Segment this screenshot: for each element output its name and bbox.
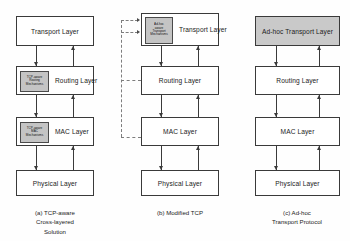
panel-b-transport-layer-box[interactable]: Ad-hoc aware Transport Mechanisms Transp… bbox=[141, 13, 219, 46]
panel-b-physical-layer-label: Physical Layer bbox=[158, 180, 202, 187]
panel-c: Ad-hoc Transport Layer Routing Layer MAC… bbox=[235, 0, 350, 241]
panel-b-adhoc-aware-transport-mechanisms-box[interactable]: Ad-hoc aware Transport Mechanisms bbox=[145, 17, 173, 44]
panel-b-feedback-bus-vertical bbox=[121, 20, 122, 137]
panel-a-caption: (a) TCP-aware Cross-layered Solution bbox=[6, 208, 104, 236]
panel-a-caption-line: (a) TCP-aware bbox=[6, 208, 104, 217]
panel-a-mac-layer-box[interactable]: TCP-aware MAC Mechanisms MAC Layer bbox=[16, 117, 94, 146]
panel-c-adhoc-transport-layer-box[interactable]: Ad-hoc Transport Layer bbox=[255, 16, 340, 46]
panel-b-feedback-branch-routing bbox=[121, 80, 141, 81]
panel-a-caption-line: Cross-layered bbox=[6, 217, 104, 226]
panel-a-physical-layer-box[interactable]: Physical Layer bbox=[16, 170, 94, 196]
panel-b-feedback-branch-mac bbox=[121, 137, 141, 138]
panel-b-routing-layer-label: Routing Layer bbox=[159, 77, 201, 84]
panel-c-mac-layer-box[interactable]: MAC Layer bbox=[255, 117, 340, 146]
mechanism-line: Mechanisms bbox=[26, 134, 43, 137]
mechanism-line: Mechanisms bbox=[26, 83, 43, 86]
panel-a: Transport Layer TCP-aware Routing Mechan… bbox=[0, 0, 115, 241]
panel-b-transport-layer-label: Transport Layer bbox=[179, 26, 227, 33]
panel-b-feedback-arrow-transport-lower bbox=[137, 30, 140, 34]
panel-b-arrowhead-up-routing bbox=[196, 95, 200, 99]
panel-b-caption: (b) Modified TCP bbox=[131, 208, 229, 217]
panel-c-routing-layer-label: Routing Layer bbox=[276, 77, 318, 84]
panel-c-routing-layer-box[interactable]: Routing Layer bbox=[255, 66, 340, 95]
panel-a-transport-layer-label: Transport Layer bbox=[31, 28, 79, 35]
panel-b-feedback-arrow-transport-upper bbox=[137, 18, 140, 22]
panel-b-physical-layer-box[interactable]: Physical Layer bbox=[141, 170, 219, 196]
panel-b-arrowhead-up-mac bbox=[196, 146, 200, 150]
panel-a-tcp-aware-routing-mechanisms-box[interactable]: TCP-aware Routing Mechanisms bbox=[20, 71, 49, 92]
panel-c-arrowhead-up-mac bbox=[317, 146, 321, 150]
panel-a-transport-layer-box[interactable]: Transport Layer bbox=[16, 16, 94, 46]
panel-a-arrowhead-up-transport bbox=[71, 46, 75, 50]
panel-c-physical-layer-box[interactable]: Physical Layer bbox=[255, 170, 340, 196]
panel-b-feedback-branch-transport-upper bbox=[121, 20, 138, 21]
panel-c-physical-layer-label: Physical Layer bbox=[275, 180, 319, 187]
panel-c-caption: (c) Ad-hoc Transport Protocol bbox=[247, 208, 347, 227]
panel-b-feedback-branch-transport-lower bbox=[121, 32, 138, 33]
panel-b-mac-layer-label: MAC Layer bbox=[163, 128, 197, 135]
panel-a-routing-layer-label: Routing Layer bbox=[55, 77, 97, 84]
panel-a-tcp-aware-mac-mechanisms-box[interactable]: TCP-aware MAC Mechanisms bbox=[20, 122, 49, 143]
panel-c-mac-layer-label: MAC Layer bbox=[281, 128, 315, 135]
panel-a-routing-layer-box[interactable]: TCP-aware Routing Mechanisms Routing Lay… bbox=[16, 66, 94, 95]
panel-c-caption-line: (c) Ad-hoc bbox=[247, 208, 347, 217]
panel-a-mac-layer-label: MAC Layer bbox=[55, 128, 89, 135]
panel-b-routing-layer-box[interactable]: Routing Layer bbox=[141, 66, 219, 95]
panel-c-arrowhead-up-routing bbox=[317, 95, 321, 99]
panel-b-mac-layer-box[interactable]: MAC Layer bbox=[141, 117, 219, 146]
panel-b-arrowhead-up-transport bbox=[196, 46, 200, 50]
panel-c-adhoc-transport-layer-label: Ad-hoc Transport Layer bbox=[262, 28, 333, 35]
panel-a-physical-layer-label: Physical Layer bbox=[33, 180, 77, 187]
panel-b: Ad-hoc aware Transport Mechanisms Transp… bbox=[115, 0, 235, 241]
panel-a-caption-line: Solution bbox=[6, 227, 104, 236]
panel-b-caption-line: (b) Modified TCP bbox=[131, 208, 229, 217]
figure-canvas: Transport Layer TCP-aware Routing Mechan… bbox=[0, 0, 350, 241]
mechanism-line: Mechanisms bbox=[150, 33, 167, 36]
panel-a-arrowhead-up-mac bbox=[71, 146, 75, 150]
panel-c-arrowhead-up-transport bbox=[317, 46, 321, 50]
panel-a-arrowhead-up-routing bbox=[71, 95, 75, 99]
panel-c-caption-line: Transport Protocol bbox=[247, 217, 347, 226]
